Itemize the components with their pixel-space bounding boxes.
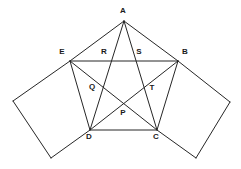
segment-A-C: [124, 21, 157, 130]
segment-A-E: [70, 21, 124, 61]
segment-F-G: [13, 101, 51, 158]
segment-E-F: [13, 61, 70, 101]
vertex-label-c: C: [153, 133, 159, 141]
segment-A-D: [90, 21, 124, 130]
vertex-label-t: T: [150, 84, 155, 92]
segment-G-D: [51, 130, 90, 158]
vertex-label-q: Q: [89, 83, 95, 91]
segment-A-B: [124, 21, 178, 61]
segment-K-C: [157, 130, 196, 158]
segment-E-D: [70, 61, 90, 130]
vertex-label-b: B: [182, 48, 188, 56]
vertex-label-e: E: [59, 48, 64, 56]
vertex-label-r: R: [101, 48, 107, 56]
geometry-canvas: [0, 0, 241, 169]
segment-B-H: [178, 61, 230, 102]
segment-B-C: [157, 61, 178, 130]
segment-group: [13, 21, 230, 158]
vertex-label-s: S: [136, 48, 141, 56]
vertex-label-a: A: [120, 7, 126, 15]
geometry-figure: AEBDCRSQTP: [0, 0, 241, 169]
segment-B-D: [90, 61, 178, 130]
segment-E-C: [70, 61, 157, 130]
segment-H-K: [196, 102, 230, 158]
vertex-label-p: P: [120, 109, 125, 117]
vertex-label-d: D: [86, 133, 92, 141]
